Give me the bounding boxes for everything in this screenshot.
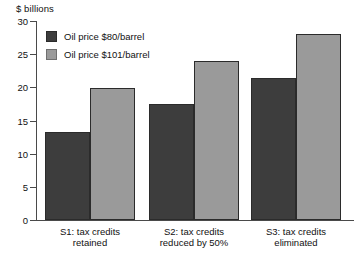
y-axis-unit-label: $ billions bbox=[16, 3, 54, 14]
y-tick-label-15: 15 bbox=[4, 117, 28, 126]
bar-s3-series2 bbox=[296, 34, 341, 220]
y-tick-label-25: 25 bbox=[4, 50, 28, 59]
bar-chart: $ billions 051015202530 Oil price $80/ba… bbox=[0, 0, 357, 260]
legend-item-1: Oil price $80/barrel bbox=[46, 29, 150, 44]
chart-legend: Oil price $80/barrelOil price $101/barre… bbox=[46, 29, 150, 65]
y-tick-label-10: 10 bbox=[4, 150, 28, 159]
legend-swatch-light bbox=[46, 49, 57, 60]
legend-swatch-dark bbox=[46, 31, 57, 42]
x-category-label-s3: S3: tax creditseliminated bbox=[237, 226, 355, 248]
y-tick-label-5: 5 bbox=[4, 183, 28, 192]
legend-item-2: Oil price $101/barrel bbox=[46, 47, 150, 62]
x-category-label-s1: S1: tax creditsretained bbox=[31, 226, 149, 248]
bar-s1-series1 bbox=[45, 132, 90, 220]
bar-s2-series2 bbox=[194, 61, 239, 220]
y-tick-label-30: 30 bbox=[4, 17, 28, 26]
y-tick-15 bbox=[30, 121, 36, 122]
bar-s3-series1 bbox=[251, 78, 296, 220]
y-tick-30 bbox=[30, 21, 36, 22]
y-tick-10 bbox=[30, 154, 36, 155]
x-category-label-s2: S2: tax creditsreduced by 50% bbox=[135, 226, 253, 248]
y-tick-label-0: 0 bbox=[4, 216, 28, 225]
y-tick-25 bbox=[30, 54, 36, 55]
y-tick-20 bbox=[30, 87, 36, 88]
bar-s1-series2 bbox=[90, 88, 135, 220]
y-tick-label-20: 20 bbox=[4, 83, 28, 92]
y-tick-0 bbox=[30, 220, 36, 221]
legend-label-2: Oil price $101/barrel bbox=[64, 50, 150, 60]
legend-label-1: Oil price $80/barrel bbox=[64, 32, 144, 42]
y-tick-5 bbox=[30, 187, 36, 188]
bar-s2-series1 bbox=[149, 104, 194, 220]
x-axis-line bbox=[36, 220, 354, 221]
